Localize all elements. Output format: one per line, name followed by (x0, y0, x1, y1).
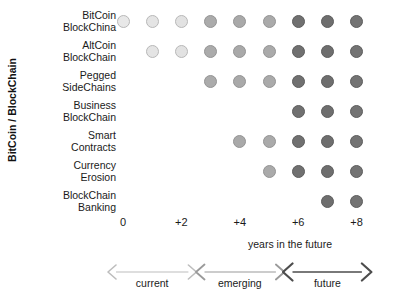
data-dot (233, 75, 246, 88)
x-axis-caption: years in the future (248, 238, 332, 250)
row-label-line1: BlockChain (24, 189, 116, 201)
data-dot (321, 45, 334, 58)
row-label: BlockChainBanking (24, 189, 116, 213)
row-label-line2: SideChains (24, 81, 116, 93)
data-dot (321, 15, 334, 28)
data-dot (233, 15, 246, 28)
data-dot (292, 15, 305, 28)
data-dot (350, 75, 363, 88)
row-label: AltCoinBlockChain (24, 39, 116, 63)
data-dot (292, 75, 305, 88)
data-dot (321, 135, 334, 148)
row-label: CurrencyErosion (24, 159, 116, 183)
x-axis-ticks: 0+2+4+6+8 (116, 216, 388, 232)
row-label-column: BitCoinBlockChinaAltCoinBlockChainPegged… (24, 8, 116, 213)
data-dot (321, 105, 334, 118)
y-axis-title-text: BitCoin / BlockChain (6, 58, 18, 162)
data-dot (350, 105, 363, 118)
data-dot (321, 165, 334, 178)
data-dot (292, 135, 305, 148)
data-dot (204, 75, 217, 88)
data-dot (204, 45, 217, 58)
row-label-line1: Currency (24, 159, 116, 171)
data-dot (204, 15, 217, 28)
phase-band-label: future (282, 277, 372, 289)
phase-band-future: future (282, 262, 372, 300)
phase-band-label: current (107, 277, 197, 289)
plot-area (116, 8, 388, 213)
data-dot (350, 15, 363, 28)
x-tick-label: +8 (337, 216, 377, 228)
data-dot (146, 15, 159, 28)
row-label-line2: Erosion (24, 171, 116, 183)
data-dot (350, 165, 363, 178)
phase-band-group: currentemergingfuture (98, 262, 390, 300)
data-dot (321, 195, 334, 208)
data-dot (175, 45, 188, 58)
data-dot (350, 135, 363, 148)
data-dot (263, 135, 276, 148)
x-tick-label: +4 (220, 216, 260, 228)
row-label-line1: Pegged (24, 69, 116, 81)
data-dot (233, 45, 246, 58)
row-label-line1: Smart (24, 129, 116, 141)
phase-band-label: emerging (195, 277, 285, 289)
x-tick-label: 0 (103, 216, 143, 228)
row-label: PeggedSideChains (24, 69, 116, 93)
row-label: SmartContracts (24, 129, 116, 153)
data-dot (292, 165, 305, 178)
data-dot (292, 45, 305, 58)
phase-band-current: current (107, 262, 197, 300)
data-dot (321, 75, 334, 88)
row-label-line2: Contracts (24, 141, 116, 153)
data-dot (263, 15, 276, 28)
row-label-line1: BitCoin (24, 9, 116, 21)
row-label-line1: AltCoin (24, 39, 116, 51)
data-dot (292, 105, 305, 118)
row-label-line2: BlockChain (24, 111, 116, 123)
row-label-line2: BlockChina (24, 21, 116, 33)
row-label: BitCoinBlockChina (24, 9, 116, 33)
row-label: BusinessBlockChain (24, 99, 116, 123)
x-tick-label: +6 (278, 216, 318, 228)
x-tick-label: +2 (161, 216, 201, 228)
data-dot (263, 75, 276, 88)
data-dot (350, 195, 363, 208)
data-dot (146, 45, 159, 58)
timeline-dot-chart: BitCoin / BlockChain BitCoinBlockChinaAl… (0, 0, 396, 306)
row-label-line2: BlockChain (24, 51, 116, 63)
data-dot (350, 45, 363, 58)
data-dot (263, 165, 276, 178)
data-dot (233, 135, 246, 148)
data-dot (175, 15, 188, 28)
y-axis-title: BitCoin / BlockChain (0, 0, 24, 220)
row-label-line1: Business (24, 99, 116, 111)
data-dot (117, 15, 130, 28)
data-dot (263, 45, 276, 58)
phase-band-emerging: emerging (195, 262, 285, 300)
row-label-line2: Banking (24, 201, 116, 213)
